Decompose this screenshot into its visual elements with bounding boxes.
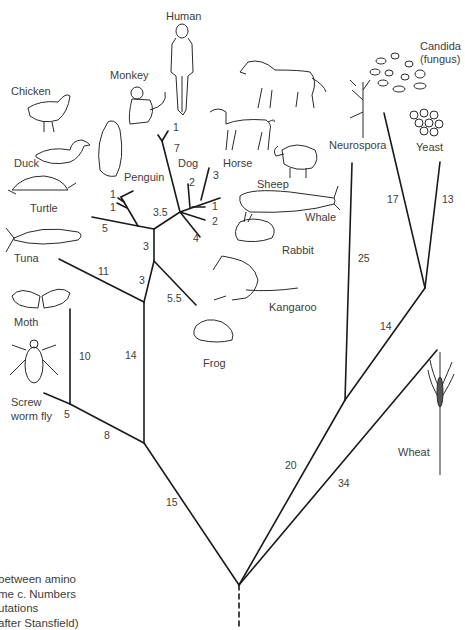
num-animal-stem: 15 [166, 496, 178, 508]
caption-line-1: between amino [0, 572, 79, 587]
caption-line-2: me c. Numbers [0, 587, 79, 602]
num-tuna: 11 [98, 265, 109, 277]
num-wheat: 34 [338, 477, 350, 489]
branch-human [158, 135, 162, 141]
horse-figure [240, 61, 326, 108]
illustrations [6, 24, 454, 475]
num-fungal-root: 20 [285, 459, 297, 471]
yeast-figure [410, 109, 443, 136]
branch-yeast [425, 162, 440, 288]
num-frog-stem: 3 [139, 274, 145, 286]
label-whale: Whale [305, 211, 336, 223]
branch-animal-stem [144, 443, 239, 585]
label-sheep: Sheep [257, 178, 289, 190]
tuna-figure [6, 228, 81, 252]
label-wheat: Wheat [398, 446, 430, 458]
branch-frog-stem [144, 261, 154, 302]
label-rabbit: Rabbit [282, 244, 314, 256]
label-candida-line2: (fungus) [420, 53, 460, 65]
branch-fungi-stem [345, 288, 425, 400]
monkey-figure [129, 87, 165, 124]
num-horse: 3 [213, 169, 219, 181]
caption-line-3: utations [0, 601, 79, 616]
num-moth: 10 [79, 350, 91, 362]
num-duck: 1 [110, 201, 116, 213]
penguin-figure [99, 121, 122, 176]
num-neurospora: 25 [358, 252, 370, 264]
num-whale-rabbit: 2 [212, 215, 218, 227]
num-reptile-stem: 3 [143, 240, 149, 252]
label-screw-worm-fly-line1: Screw [11, 396, 42, 408]
num-human-monkey: 1 [173, 121, 179, 133]
num-insect-stem: 8 [104, 429, 110, 441]
moth-figure [12, 289, 70, 308]
whale-figure [240, 186, 340, 212]
label-dog: Dog [178, 157, 198, 169]
label-neurospora: Neurospora [329, 139, 386, 151]
num-chicken: 1 [110, 188, 116, 200]
num-vertebrate-stem: 14 [125, 349, 137, 361]
kangaroo-figure [213, 256, 298, 300]
num-sheep: 1 [212, 200, 218, 212]
label-duck: Duck [14, 157, 39, 169]
branch-horse [201, 168, 209, 200]
num-dog: 2 [189, 176, 195, 188]
dog-figure [210, 109, 274, 150]
label-moth: Moth [14, 316, 38, 328]
figure-caption: between amino me c. Numbers utations aft… [0, 572, 79, 630]
branch-neurospora [345, 163, 352, 400]
num-turtle: 5 [102, 222, 108, 234]
num-primate-stem: 7 [174, 142, 180, 154]
branch-monkey [162, 131, 168, 141]
label-tuna: Tuna [14, 252, 39, 264]
label-monkey: Monkey [110, 69, 149, 81]
label-horse: Horse [223, 157, 252, 169]
duck-figure [36, 140, 90, 164]
label-turtle: Turtle [30, 202, 58, 214]
label-screw-worm-fly-line2: worm fly [11, 410, 52, 422]
num-candida: 17 [387, 193, 399, 205]
neurospora-figure [350, 80, 370, 138]
branch-penguin [121, 191, 133, 197]
label-frog: Frog [203, 357, 226, 369]
branch-bird-stem [138, 226, 154, 229]
label-chicken: Chicken [11, 85, 51, 97]
num-yeast: 13 [442, 193, 454, 205]
screw-worm-fly-figure [10, 340, 58, 383]
label-penguin: Penguin [124, 171, 164, 183]
branch-fungal-root [239, 400, 345, 585]
branch-turtle [92, 217, 138, 226]
label-human: Human [166, 10, 201, 22]
candida-figure [370, 53, 426, 92]
num-screw-worm-fly: 5 [64, 408, 70, 420]
tree-branches [44, 113, 440, 628]
wheat-figure [428, 352, 454, 475]
sheep-figure [274, 145, 317, 178]
label-yeast: Yeast [416, 141, 443, 153]
label-kangaroo: Kangaroo [269, 301, 317, 313]
num-frog: 5.5 [167, 292, 182, 304]
turtle-figure [8, 176, 76, 194]
num-kangaroo: 4 [193, 232, 199, 244]
num-fungi-stem: 14 [380, 320, 392, 332]
caption-line-4: after Stansfield) [0, 616, 79, 630]
num-bird-mammal: 3.5 [153, 206, 168, 218]
rabbit-figure [235, 212, 274, 242]
branch-screw-worm-fly [44, 393, 70, 404]
chicken-figure [28, 95, 70, 132]
label-candida-line1: Candida [420, 40, 461, 52]
frog-figure [194, 320, 233, 342]
human-figure [171, 24, 193, 115]
branch-wheat [239, 350, 437, 585]
